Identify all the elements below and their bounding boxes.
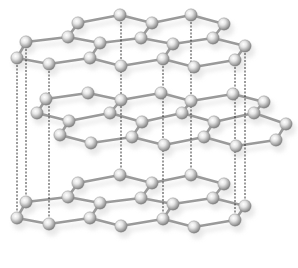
carbon-atom	[63, 115, 75, 127]
graphite-lattice-svg	[0, 0, 298, 268]
carbon-atom	[135, 32, 147, 44]
carbon-atom	[229, 214, 241, 226]
carbon-atom	[176, 107, 188, 119]
carbon-atom	[62, 31, 74, 43]
carbon-atom	[31, 107, 43, 119]
carbon-atom	[85, 137, 97, 149]
carbon-atom	[239, 40, 251, 52]
carbon-atom	[218, 18, 230, 30]
carbon-atom	[218, 178, 230, 190]
carbon-atom	[157, 213, 169, 225]
carbon-atom	[158, 139, 170, 151]
carbon-atom	[115, 60, 127, 72]
carbon-atom	[155, 87, 167, 99]
carbon-atom	[72, 17, 84, 29]
carbon-atom	[11, 52, 23, 64]
carbon-atom	[239, 200, 251, 212]
carbon-atom	[229, 54, 241, 66]
carbon-atom	[20, 196, 32, 208]
carbon-atom	[114, 169, 126, 181]
carbon-atom	[54, 129, 66, 141]
carbon-atom	[104, 107, 116, 119]
carbon-atom	[94, 37, 106, 49]
carbon-atom	[157, 53, 169, 65]
carbon-atom	[115, 220, 127, 232]
carbon-atom	[188, 221, 200, 233]
carbon-atom	[135, 192, 147, 204]
carbon-atom	[84, 52, 96, 64]
carbon-atom	[280, 118, 292, 130]
carbon-atom	[82, 87, 94, 99]
carbon-atom	[11, 212, 23, 224]
carbon-atom	[115, 94, 127, 106]
carbon-atom	[207, 32, 219, 44]
carbon-atom	[94, 197, 106, 209]
carbon-atom	[146, 17, 158, 29]
carbon-atom	[167, 38, 179, 50]
carbon-atom	[230, 140, 242, 152]
carbon-atom	[185, 95, 197, 107]
carbon-atom	[185, 9, 197, 21]
carbon-atom	[185, 169, 197, 181]
carbon-atom	[43, 218, 55, 230]
graphite-structure-diagram	[0, 0, 298, 268]
carbon-atom	[136, 116, 148, 128]
carbon-atom	[40, 93, 52, 105]
carbon-atom	[167, 198, 179, 210]
carbon-atom	[198, 131, 210, 143]
carbon-atom	[84, 212, 96, 224]
carbon-atom	[188, 61, 200, 73]
carbon-atom	[207, 192, 219, 204]
carbon-atom	[208, 116, 220, 128]
carbon-atom	[62, 191, 74, 203]
carbon-atom	[20, 36, 32, 48]
carbon-atom	[114, 9, 126, 21]
carbon-atom	[72, 177, 84, 189]
carbon-atom	[227, 88, 239, 100]
carbon-atom	[248, 107, 260, 119]
carbon-atom	[126, 131, 138, 143]
carbon-atom	[146, 177, 158, 189]
carbon-atom	[270, 134, 282, 146]
carbon-atom	[43, 58, 55, 70]
carbon-atom	[258, 96, 270, 108]
carbon-layers-group	[11, 9, 296, 239]
